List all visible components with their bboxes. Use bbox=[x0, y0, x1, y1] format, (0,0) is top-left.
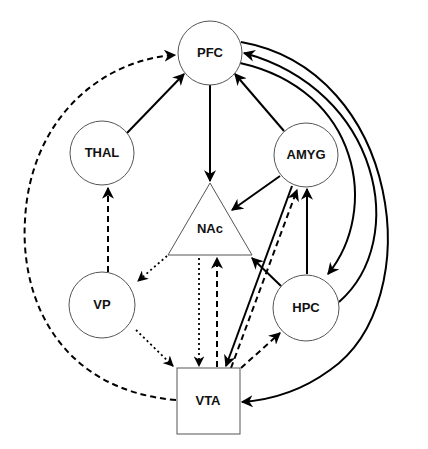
node-label-pfc: PFC bbox=[197, 45, 224, 60]
node-nac: NAc bbox=[168, 183, 252, 255]
edge-vp-to-vta bbox=[136, 330, 173, 366]
node-label-nac: NAc bbox=[197, 221, 223, 236]
node-label-thal: THAL bbox=[85, 145, 120, 160]
edge-amyg-to-pfc bbox=[235, 74, 284, 131]
node-amyg: AMYG bbox=[274, 123, 338, 187]
edge-vta-to-hpc bbox=[241, 333, 280, 368]
node-pfc: PFC bbox=[178, 21, 242, 85]
node-vp: VP bbox=[69, 272, 135, 338]
edge-nac-to-vp bbox=[138, 256, 167, 281]
edge-vta-to-amyg bbox=[231, 190, 297, 368]
edge-thal-to-pfc bbox=[127, 74, 184, 133]
edge-amyg-to-vta bbox=[226, 186, 292, 366]
node-label-vta: VTA bbox=[195, 393, 221, 408]
node-label-vp: VP bbox=[93, 297, 111, 312]
node-thal: THAL bbox=[70, 121, 134, 185]
node-label-amyg: AMYG bbox=[287, 147, 326, 162]
node-label-hpc: HPC bbox=[292, 300, 320, 315]
edge-pfc-to-vta bbox=[241, 42, 388, 402]
edge-amyg-to-nac bbox=[232, 176, 280, 210]
brain-circuit-diagram: PFC THAL AMYG NAc VP HPC VTA bbox=[0, 0, 428, 449]
node-vta: VTA bbox=[177, 368, 240, 434]
node-hpc: HPC bbox=[273, 275, 339, 341]
